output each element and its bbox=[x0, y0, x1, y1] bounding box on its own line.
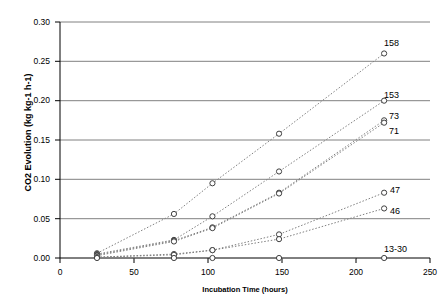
x-tick-label-100: 100 bbox=[196, 268, 220, 277]
data-point-46-148 bbox=[276, 237, 281, 242]
x-tick-label-250: 250 bbox=[418, 268, 442, 277]
y-axis-ticks bbox=[55, 22, 60, 258]
data-point-13-30-25 bbox=[94, 255, 99, 260]
y-tick-label-000: 0.00 bbox=[20, 254, 50, 263]
data-point-153-148 bbox=[276, 169, 281, 174]
series-label-13-30: 13-30 bbox=[384, 245, 407, 254]
data-point-158-148 bbox=[276, 131, 281, 136]
data-point-71-219 bbox=[382, 120, 387, 125]
data-point-13-30-103 bbox=[210, 255, 215, 260]
data-point-158-77 bbox=[171, 211, 176, 216]
series-label-71: 71 bbox=[389, 127, 399, 136]
y-tick-label-030: 0.30 bbox=[20, 18, 50, 27]
data-point-47-219 bbox=[382, 190, 387, 195]
x-tick-label-150: 150 bbox=[270, 268, 294, 277]
data-point-158-219 bbox=[382, 51, 387, 56]
data-point-13-30-77 bbox=[171, 255, 176, 260]
x-axis-title-text: Incubation Time (hours) bbox=[202, 285, 287, 294]
series-label-153: 153 bbox=[384, 91, 399, 100]
data-point-13-30-219 bbox=[382, 255, 387, 260]
data-point-71-103 bbox=[210, 226, 215, 231]
x-tick-label-0: 0 bbox=[48, 268, 72, 277]
data-point-46-219 bbox=[382, 206, 387, 211]
series-label-158: 158 bbox=[384, 39, 399, 48]
x-axis-title: Incubation Time (hours) bbox=[60, 286, 430, 294]
data-point-71-77 bbox=[171, 239, 176, 244]
data-point-46-103 bbox=[210, 248, 215, 253]
data-point-13-30-148 bbox=[276, 255, 281, 260]
series-label-47: 47 bbox=[390, 186, 400, 195]
data-point-158-103 bbox=[210, 181, 215, 186]
data-point-71-148 bbox=[276, 191, 281, 196]
y-axis-title-text: CO2 Evolution (kg kg-1 h-1) bbox=[23, 74, 33, 192]
series-label-73: 73 bbox=[389, 112, 399, 121]
data-point-153-103 bbox=[210, 214, 215, 219]
y-axis-title: CO2 Evolution (kg kg-1 h-1) bbox=[24, 43, 33, 223]
series-label-46: 46 bbox=[390, 207, 400, 216]
x-tick-label-50: 50 bbox=[122, 268, 146, 277]
x-axis-ticks bbox=[60, 258, 430, 263]
x-tick-label-200: 200 bbox=[344, 268, 368, 277]
